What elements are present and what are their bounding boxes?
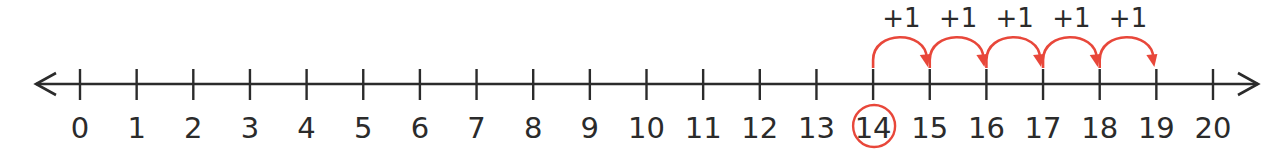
tick-label: 14 xyxy=(855,111,892,145)
tick-label: 12 xyxy=(741,111,778,145)
tick-label: 4 xyxy=(297,111,315,145)
jump-label: +1 xyxy=(882,3,920,33)
tick-label: 7 xyxy=(467,111,485,145)
tick-label: 2 xyxy=(184,111,202,145)
tick-label: 17 xyxy=(1025,111,1062,145)
tick-label: 16 xyxy=(968,111,1005,145)
tick-label: 8 xyxy=(524,111,542,145)
jump-arc xyxy=(1043,37,1097,68)
tick-labels: 01234567891011121314151617181920 xyxy=(71,111,1232,145)
tick-label: 13 xyxy=(798,111,835,145)
jump-arrowhead-icon xyxy=(1146,54,1157,67)
jump-arc xyxy=(986,37,1040,68)
jump-arc xyxy=(1100,37,1154,68)
tick-label: 6 xyxy=(411,111,429,145)
tick-label: 19 xyxy=(1138,111,1175,145)
tick-label: 3 xyxy=(241,111,259,145)
tick-label: 11 xyxy=(685,111,722,145)
jump-arc xyxy=(873,37,927,68)
jump-labels: +1+1+1+1+1 xyxy=(882,3,1147,33)
jump-label: +1 xyxy=(996,3,1034,33)
tick-label: 0 xyxy=(71,111,89,145)
jump-arc xyxy=(930,37,984,68)
jump-label: +1 xyxy=(1109,3,1147,33)
number-line-diagram: 01234567891011121314151617181920 +1+1+1+… xyxy=(0,0,1281,157)
tick-label: 15 xyxy=(911,111,948,145)
tick-label: 9 xyxy=(581,111,599,145)
jump-arcs xyxy=(873,37,1157,68)
tick-label: 10 xyxy=(628,111,665,145)
tick-label: 5 xyxy=(354,111,372,145)
tick-marks xyxy=(80,69,1213,100)
jump-label: +1 xyxy=(1052,3,1090,33)
tick-label: 1 xyxy=(127,111,145,145)
tick-label: 18 xyxy=(1081,111,1118,145)
jump-label: +1 xyxy=(939,3,977,33)
tick-label: 20 xyxy=(1195,111,1232,145)
